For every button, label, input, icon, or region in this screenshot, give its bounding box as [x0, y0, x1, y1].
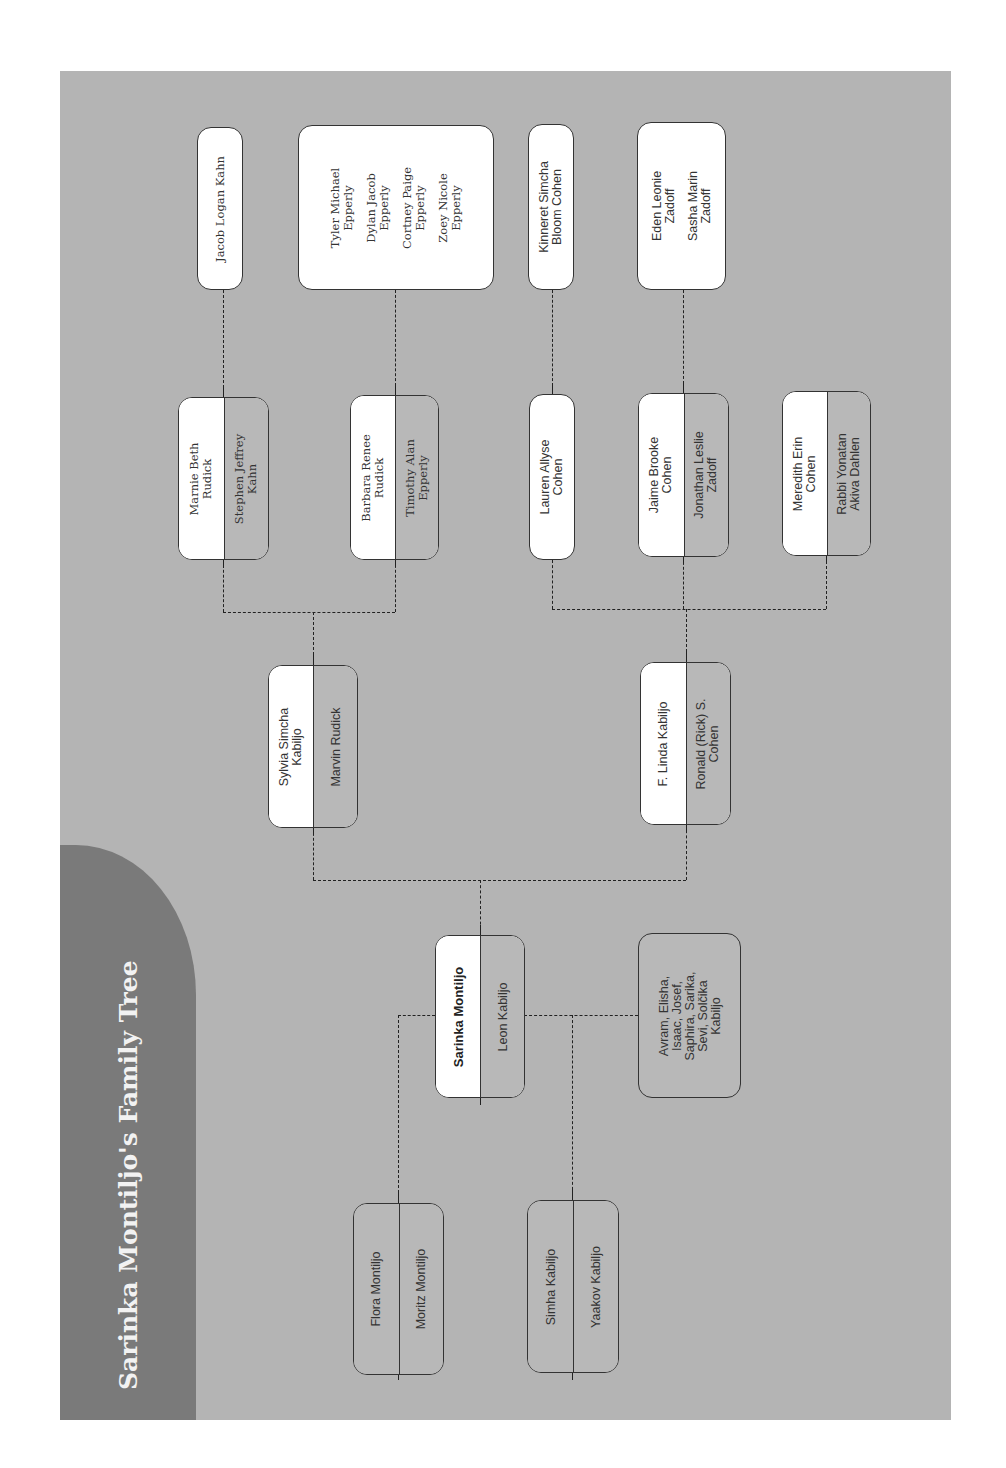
person-barbara: Barbara Renee Rudick — [351, 396, 395, 559]
connector — [524, 1015, 638, 1016]
connector — [313, 880, 686, 881]
sibling-names: Kabiljo — [709, 971, 722, 1060]
connector — [313, 612, 314, 655]
spouse-ronald: Ronald (Rick) S. Cohen — [686, 663, 731, 824]
person-box-jacob-kahn[interactable]: Jacob Logan Kahn — [197, 127, 243, 290]
connector — [686, 825, 687, 880]
connector — [683, 557, 684, 609]
connector — [686, 609, 687, 652]
person-meredith: Meredith Erin Cohen — [783, 392, 827, 555]
couple-box-sylvia-marvin[interactable]: Sylvia Simcha Kabiljo Marvin Rudick — [268, 665, 358, 828]
person-sylvia: Sylvia Simcha Kabiljo — [269, 666, 313, 827]
person-name: Epperly — [342, 166, 355, 248]
person-sarinka: Sarinka Montiljo — [436, 936, 480, 1097]
couple-box-meredith-yonatan[interactable]: Meredith Erin Cohen Rabbi Yonatan Akiva … — [782, 391, 871, 556]
connector — [223, 290, 224, 388]
person-name: Cohen — [552, 439, 565, 514]
person-name: Bloom Cohen — [551, 161, 564, 253]
couple-box-linda-ronald[interactable]: F. Linda Kabiljo Ronald (Rick) S. Cohen — [640, 662, 731, 825]
spouse-yaakov: Yaakov Kabiljo — [573, 1201, 618, 1372]
spouse-yonatan: Rabbi Yonatan Akiva Dahlen — [827, 392, 871, 555]
person-box-epperly-children[interactable]: Tyler Michael Epperly Dylan Jacob Epperl… — [298, 125, 494, 290]
spouse-timothy: Timothy Alan Epperly — [395, 396, 439, 559]
person-box-zadoff-children[interactable]: Eden Leonie Zadoff Sasha Marin Zadoff — [637, 122, 726, 290]
sibling-names: Avram, Elisha, — [657, 971, 670, 1060]
person-box-kinneret-cohen[interactable]: Kinneret Simcha Bloom Cohen — [528, 124, 574, 290]
spouse-stephen: Stephen Jeffrey Kahn — [224, 398, 269, 559]
siblings-box[interactable]: Avram, Elisha, Isaac, Josef, Saphira, Sa… — [638, 933, 741, 1098]
person-name: Jacob Logan Kahn — [214, 156, 227, 262]
connector — [552, 560, 553, 609]
spouse-leon: Leon Kabiljo — [480, 936, 524, 1097]
person-name: Zadoff — [700, 171, 713, 241]
couple-box-marnie-stephen[interactable]: Marnie Beth Rudick Stephen Jeffrey Kahn — [178, 397, 269, 560]
connector — [826, 556, 827, 609]
sibling-names: Isaac, Josef, — [670, 971, 683, 1060]
person-name: Epperly — [378, 166, 391, 248]
connector — [480, 880, 481, 935]
person-linda: F. Linda Kabiljo — [641, 663, 686, 824]
couple-box-simha-yaakov[interactable]: Simha Kabiljo Yaakov Kabiljo — [527, 1200, 619, 1373]
sibling-names: Sevi, Solčika — [696, 971, 709, 1060]
person-name: Epperly — [414, 166, 427, 248]
page-title: Sarinka Montiljo's Family Tree — [60, 860, 196, 1420]
couple-box-sarinka-leon[interactable]: Sarinka Montiljo Leon Kabiljo — [435, 935, 525, 1098]
person-name: Epperly — [450, 166, 463, 248]
person-jaime: Jaime Brooke Cohen — [639, 394, 684, 556]
connector — [552, 609, 826, 610]
couple-box-flora-moritz[interactable]: Flora Montiljo Moritz Montiljo — [353, 1203, 444, 1375]
couple-box-jaime-jonathan[interactable]: Jaime Brooke Cohen Jonathan Leslie Zadof… — [638, 393, 729, 557]
person-name: Zadoff — [664, 171, 677, 241]
person-name: Eden Leonie — [651, 171, 664, 241]
person-box-lauren-cohen[interactable]: Lauren Allyse Cohen — [529, 394, 575, 560]
spouse-moritz: Moritz Montiljo — [399, 1204, 444, 1374]
connector — [395, 290, 396, 386]
person-marnie: Marnie Beth Rudick — [179, 398, 224, 559]
connector — [398, 1015, 399, 1203]
connector — [683, 290, 684, 384]
connector — [552, 290, 553, 386]
connector — [223, 612, 395, 613]
connector — [313, 828, 314, 880]
person-simha: Simha Kabiljo — [528, 1201, 573, 1372]
sibling-names: Saphira, Sarika, — [683, 971, 696, 1060]
connector — [572, 1015, 573, 1200]
spouse-jonathan: Jonathan Leslie Zadoff — [684, 394, 729, 556]
spouse-marvin: Marvin Rudick — [313, 666, 357, 827]
connector — [398, 1015, 435, 1016]
person-flora: Flora Montiljo — [354, 1204, 399, 1374]
couple-box-barbara-timothy[interactable]: Barbara Renee Rudick Timothy Alan Epperl… — [350, 395, 439, 560]
connector — [395, 560, 396, 612]
person-name: Sasha Marin — [687, 171, 700, 241]
